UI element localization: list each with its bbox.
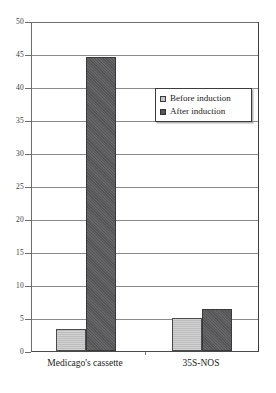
y-axis-label: 5 [0, 315, 24, 323]
chart-legend: Before inductionAfter induction [155, 88, 252, 122]
legend-item-label: Before induction [170, 93, 231, 104]
legend-item[interactable]: Before induction [160, 92, 247, 105]
x-axis-category-label: 35S-NOS [131, 357, 271, 369]
gridline [32, 154, 258, 155]
legend-swatch-before-icon [160, 96, 166, 102]
y-axis-label: 0 [0, 348, 24, 356]
y-axis-label: 15 [0, 249, 24, 257]
y-axis-label: 45 [0, 51, 24, 59]
y-axis-label: 40 [0, 84, 24, 92]
bar-before-induction [172, 318, 202, 351]
bar-chart: 50454035302520151050 Medicago's cassette… [0, 0, 276, 393]
plot-area [31, 22, 259, 352]
bar-before-induction [56, 329, 86, 351]
y-axis-label: 20 [0, 216, 24, 224]
y-axis-label: 35 [0, 117, 24, 125]
y-axis-label: 50 [0, 18, 24, 26]
legend-item[interactable]: After induction [160, 105, 247, 118]
gridline [32, 220, 258, 221]
y-axis-label: 10 [0, 282, 24, 290]
gridline [32, 253, 258, 254]
gridline [32, 187, 258, 188]
gridline [32, 22, 258, 23]
gridline [32, 286, 258, 287]
x-axis-tick [145, 352, 146, 355]
bar-after-induction [86, 57, 116, 351]
y-axis-label: 25 [0, 183, 24, 191]
y-axis-label: 30 [0, 150, 24, 158]
legend-swatch-after-icon [160, 109, 166, 115]
gridline [32, 55, 258, 56]
legend-item-label: After induction [170, 106, 225, 117]
bar-after-induction [202, 309, 232, 351]
